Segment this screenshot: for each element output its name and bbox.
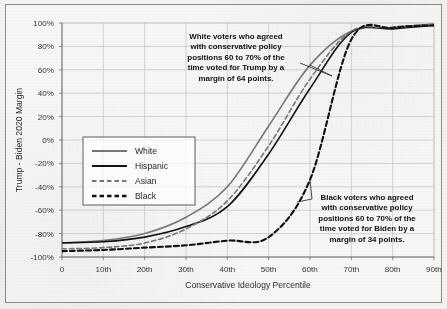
x-tick-label: 70th bbox=[343, 265, 359, 274]
x-tick-label: 80th bbox=[385, 265, 401, 274]
legend-label-asian[interactable]: Asian bbox=[135, 176, 157, 186]
x-tick-label: 10th bbox=[95, 265, 111, 274]
black-annotation-line: Black voters who agreed bbox=[321, 193, 414, 202]
y-tick-label: 40% bbox=[38, 89, 54, 98]
y-tick-label: 80% bbox=[38, 42, 54, 51]
x-tick-label: 0 bbox=[60, 265, 65, 274]
white-annotation-line: positions 60 to 70% of the bbox=[187, 53, 285, 62]
legend[interactable]: WhiteHispanicAsianBlack bbox=[83, 137, 195, 205]
black-annotation: Black voters who agreedwith conservative… bbox=[297, 180, 416, 244]
y-axis-ticks: 100%80%60%40%20%0%-20%-40%-60%-80%-100% bbox=[31, 19, 62, 262]
y-tick-label: 0% bbox=[42, 136, 54, 145]
y-tick-label: -80% bbox=[35, 230, 54, 239]
y-tick-label: 20% bbox=[38, 113, 54, 122]
black-annotation-line: positions 60 to 70% of the bbox=[318, 214, 416, 223]
black-annotation-line: with conservative policy bbox=[320, 203, 413, 212]
black-annotation-line: time voted for Biden by a bbox=[320, 224, 415, 233]
legend-label-black[interactable]: Black bbox=[135, 191, 157, 201]
white-annotation-line: White voters who agreed bbox=[189, 32, 283, 41]
white-annotation-line: time voted for Trump by a bbox=[188, 63, 285, 72]
white-annotation-line: with conservative policy bbox=[189, 42, 282, 51]
white-annotation-line: margin of 64 points. bbox=[199, 74, 274, 83]
black-annotation-line: margin of 34 points. bbox=[330, 235, 405, 244]
x-axis-ticks: 010th20th30th40th50th60th70th80th90th bbox=[60, 257, 442, 274]
y-tick-label: 60% bbox=[38, 66, 54, 75]
y-tick-label: -40% bbox=[35, 183, 54, 192]
x-tick-label: 60th bbox=[302, 265, 318, 274]
y-axis-label: Trump - Biden 2020 Margin bbox=[14, 88, 24, 193]
y-tick-label: -60% bbox=[35, 206, 54, 215]
chart-figure: 100%80%60%40%20%0%-20%-40%-60%-80%-100% … bbox=[0, 0, 447, 309]
x-tick-label: 90th bbox=[426, 265, 442, 274]
x-tick-label: 30th bbox=[178, 265, 194, 274]
x-axis-label: Conservative Ideology Percentile bbox=[185, 280, 311, 290]
y-tick-label: 100% bbox=[33, 19, 54, 28]
x-tick-label: 50th bbox=[261, 265, 277, 274]
x-tick-label: 20th bbox=[137, 265, 153, 274]
y-tick-label: -100% bbox=[31, 253, 54, 262]
line-chart: 100%80%60%40%20%0%-20%-40%-60%-80%-100% … bbox=[0, 0, 447, 309]
x-tick-label: 40th bbox=[219, 265, 235, 274]
legend-label-hispanic[interactable]: Hispanic bbox=[135, 161, 169, 171]
legend-label-white[interactable]: White bbox=[135, 146, 157, 156]
y-tick-label: -20% bbox=[35, 159, 54, 168]
